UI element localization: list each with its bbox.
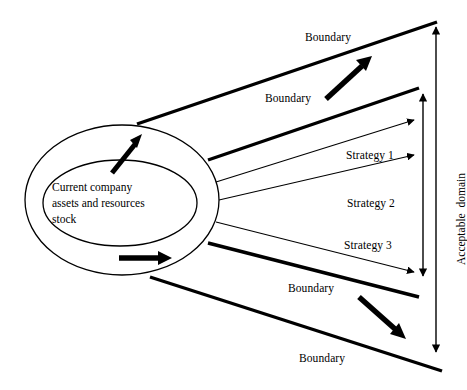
acceptable-domain-label: Acceptable domain [455, 173, 467, 265]
boundary-label-bottom-outer: Boundary [299, 351, 345, 366]
strategy-2-label: Strategy 2 [347, 196, 395, 211]
boundary-label-top-outer: Boundary [305, 30, 351, 45]
strategy-3-label: Strategy 3 [344, 238, 392, 253]
boundary-line-top-outer [137, 22, 437, 124]
growth-arrow-upper-outer [326, 56, 372, 99]
boundary-label-top-inner: Boundary [265, 91, 311, 106]
boundary-label-bottom-inner: Boundary [288, 281, 334, 296]
growth-arrow-lower-outer [359, 297, 406, 339]
strategy-1-label: Strategy 1 [346, 148, 394, 163]
core-node-label: Current company assets and resources sto… [52, 180, 202, 228]
